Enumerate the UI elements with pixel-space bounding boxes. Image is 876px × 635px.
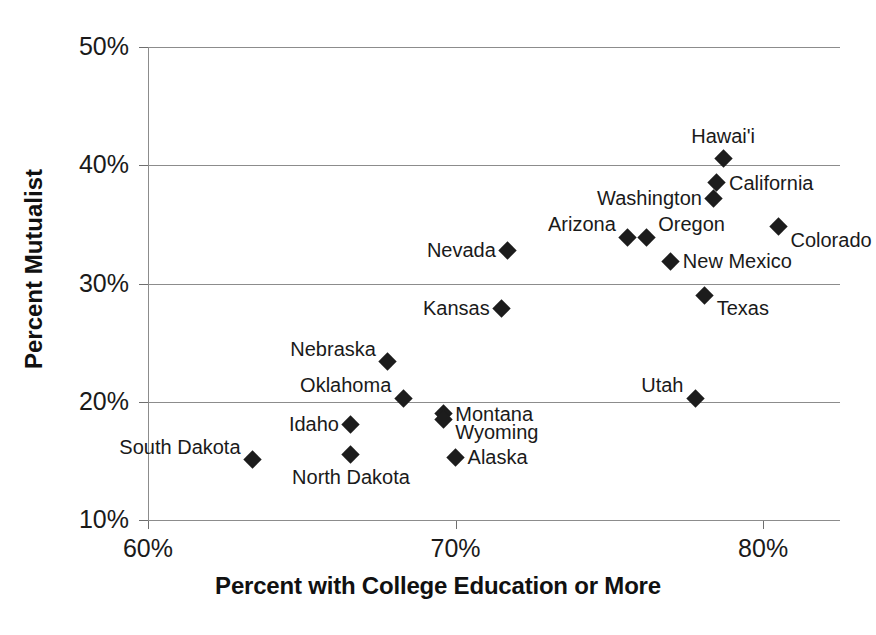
data-point-label: Wyoming bbox=[455, 421, 538, 443]
y-tick-mark bbox=[139, 165, 148, 166]
data-point-marker[interactable] bbox=[705, 189, 723, 207]
y-tick-mark bbox=[139, 520, 148, 521]
y-tick-label-wrap: 30% bbox=[55, 271, 129, 296]
data-point-label: Oklahoma bbox=[300, 374, 391, 396]
y-tick-label: 20% bbox=[55, 389, 129, 414]
data-point-label: New Mexico bbox=[683, 250, 792, 272]
gridline-y bbox=[148, 284, 840, 285]
x-axis-title: Percent with College Education or More bbox=[0, 572, 876, 600]
x-tick-label: 60% bbox=[103, 534, 193, 562]
y-tick-mark bbox=[139, 284, 148, 285]
data-point-marker[interactable] bbox=[686, 389, 704, 407]
y-tick-mark bbox=[139, 47, 148, 48]
data-point-label: Utah bbox=[641, 374, 683, 396]
data-point-marker[interactable] bbox=[695, 286, 713, 304]
x-tick-mark bbox=[456, 520, 457, 529]
data-point-marker[interactable] bbox=[492, 299, 510, 317]
y-tick-label: 30% bbox=[55, 271, 129, 296]
data-point-label: Oregon bbox=[658, 213, 725, 235]
y-axis-title: Percent Mutualist bbox=[20, 19, 48, 519]
y-tick-label: 10% bbox=[55, 507, 129, 532]
data-point-label: Texas bbox=[717, 297, 769, 319]
scatter-plot-figure: Percent Mutualist Percent with College E… bbox=[0, 0, 876, 635]
y-tick-label-wrap: 50% bbox=[55, 34, 129, 59]
x-tick-label: 80% bbox=[718, 534, 808, 562]
data-point-label: Alaska bbox=[468, 446, 528, 468]
data-point-marker[interactable] bbox=[243, 450, 261, 468]
y-tick-label: 50% bbox=[55, 34, 129, 59]
data-point-label: South Dakota bbox=[119, 436, 240, 458]
y-tick-mark bbox=[139, 402, 148, 403]
gridline-y bbox=[148, 165, 840, 166]
y-tick-label-wrap: 10% bbox=[55, 507, 129, 532]
data-point-marker[interactable] bbox=[446, 448, 464, 466]
data-point-label: California bbox=[729, 172, 813, 194]
data-point-marker[interactable] bbox=[637, 228, 655, 246]
x-tick-label: 70% bbox=[411, 534, 501, 562]
y-tick-label-wrap: 20% bbox=[55, 389, 129, 414]
plot-area: Hawai'iCaliforniaWashingtonColoradoArizo… bbox=[148, 47, 840, 520]
data-point-label: Nebraska bbox=[290, 338, 376, 360]
data-point-label: Nevada bbox=[427, 239, 496, 261]
data-point-marker[interactable] bbox=[342, 446, 360, 464]
data-point-marker[interactable] bbox=[394, 389, 412, 407]
y-tick-label-wrap: 40% bbox=[55, 152, 129, 177]
x-tick-mark bbox=[148, 520, 149, 529]
data-point-marker[interactable] bbox=[499, 241, 517, 259]
data-point-marker[interactable] bbox=[342, 415, 360, 433]
data-point-label: Washington bbox=[597, 187, 702, 209]
data-point-marker[interactable] bbox=[708, 174, 726, 192]
x-tick-mark bbox=[763, 520, 764, 529]
data-point-label: Arizona bbox=[548, 213, 616, 235]
data-point-label: Kansas bbox=[423, 297, 490, 319]
data-point-marker[interactable] bbox=[662, 252, 680, 270]
data-point-marker[interactable] bbox=[379, 352, 397, 370]
data-point-marker[interactable] bbox=[619, 228, 637, 246]
data-point-marker[interactable] bbox=[769, 218, 787, 236]
data-point-label: North Dakota bbox=[292, 466, 410, 488]
data-point-label: Idaho bbox=[289, 413, 339, 435]
gridline-y bbox=[148, 47, 840, 48]
y-tick-label: 40% bbox=[55, 152, 129, 177]
gridline-y bbox=[148, 520, 840, 521]
data-point-label: Colorado bbox=[790, 229, 871, 251]
data-point-label: Hawai'i bbox=[691, 125, 755, 147]
